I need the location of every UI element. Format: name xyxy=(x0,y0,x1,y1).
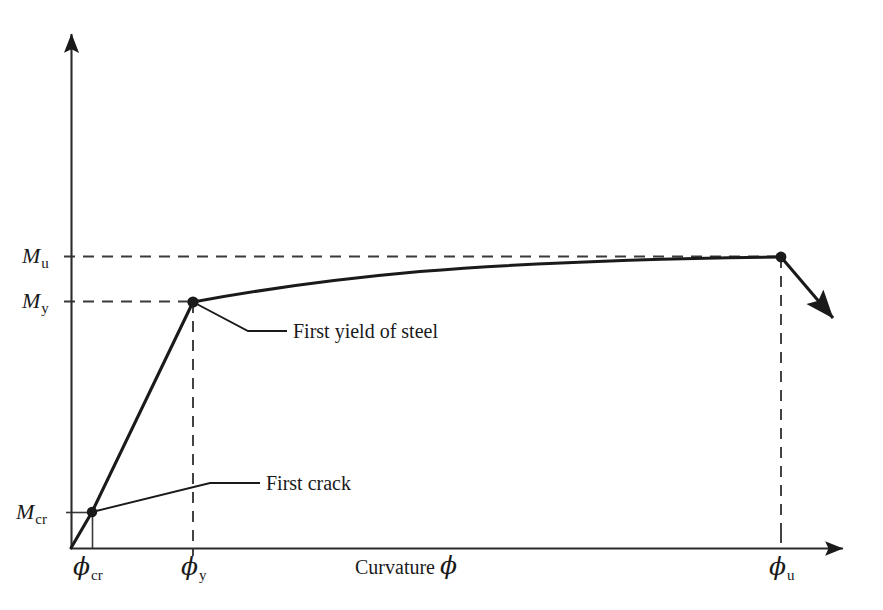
guide-lines xyxy=(64,257,781,557)
annotation-first-crack-text: First crack xyxy=(266,472,351,494)
x-tick-sub-phicr: cr xyxy=(91,567,103,583)
y-tick-label-mcr: Mcr xyxy=(16,501,46,523)
curve-falling-branch xyxy=(781,257,833,318)
x-tick-label-phicr: ϕcr xyxy=(73,554,102,579)
y-tick-sub-mu: u xyxy=(41,255,49,271)
figure-canvas xyxy=(0,0,883,610)
x-tick-base-phicr: ϕ xyxy=(73,552,90,581)
leader-first-crack xyxy=(92,483,260,512)
y-tick-base-my: M xyxy=(22,288,40,313)
y-tick-base-mu: M xyxy=(22,243,40,268)
y-tick-label-my: My xyxy=(22,290,48,312)
marker-yield-point xyxy=(187,296,198,307)
annotation-first-crack: First crack xyxy=(266,473,351,493)
curve-postyield-branch xyxy=(193,257,781,302)
x-axis-title-text: Curvature xyxy=(355,556,435,578)
y-tick-sub-mcr: cr xyxy=(35,511,47,527)
x-tick-base-phiu: ϕ xyxy=(769,552,786,581)
x-tick-sub-phiy: y xyxy=(199,567,207,583)
x-tick-sub-phiu: u xyxy=(787,567,795,583)
y-tick-base-mcr: M xyxy=(16,499,34,524)
moment-curvature-curve xyxy=(71,257,781,548)
marker-crack-point xyxy=(87,507,97,517)
curve-cracked-branch xyxy=(92,302,193,512)
annotation-first-yield-text: First yield of steel xyxy=(293,320,438,342)
moment-curvature-figure: Mu My Mcr ϕcr ϕy ϕu Curvature ϕ First yi… xyxy=(0,0,883,610)
axes xyxy=(71,34,843,549)
annotation-first-yield-of-steel: First yield of steel xyxy=(293,321,438,341)
data-point-markers xyxy=(87,252,787,518)
annotation-leaders xyxy=(92,302,287,512)
x-axis-title: Curvature ϕ xyxy=(355,553,457,578)
x-tick-label-phiu: ϕu xyxy=(769,554,794,579)
x-tick-label-phiy: ϕy xyxy=(181,554,206,579)
marker-ultimate-point xyxy=(776,252,787,263)
leader-first-yield xyxy=(193,302,287,331)
y-tick-sub-my: y xyxy=(41,300,49,316)
x-tick-base-phiy: ϕ xyxy=(181,552,198,581)
y-tick-label-mu: Mu xyxy=(22,245,48,267)
curve-uncracked-branch xyxy=(71,512,92,548)
x-axis-title-symbol: ϕ xyxy=(440,551,457,580)
